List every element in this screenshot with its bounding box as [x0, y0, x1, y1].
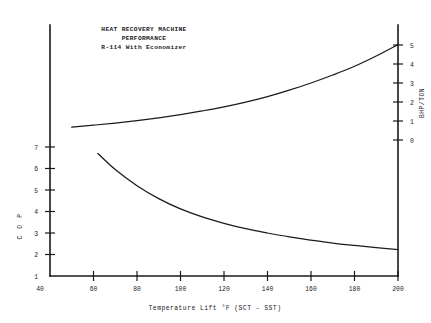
left-axis-ticks: 7 6 5 4 3 2 1: [34, 145, 55, 281]
right-tick-label: 1: [410, 119, 414, 126]
title-line-1: HEAT RECOVERY MACHINE: [101, 26, 186, 33]
right-tick-label: 3: [410, 81, 414, 88]
left-tick-label: 4: [34, 209, 38, 216]
data-curves: [72, 45, 398, 250]
title-line-2: PERFORMANCE: [122, 35, 167, 42]
left-tick-label: 1: [34, 274, 38, 281]
left-tick-label: 6: [34, 166, 38, 173]
title-line-3: R-114 With Economizer: [101, 44, 186, 51]
left-tick-label: 3: [34, 231, 38, 238]
x-tick-label: 140: [262, 286, 274, 293]
left-tick-label: 2: [34, 252, 38, 259]
performance-chart: HEAT RECOVERY MACHINE PERFORMANCE R-114 …: [0, 0, 431, 323]
left-tick-label: 7: [34, 145, 38, 152]
chart-page: HEAT RECOVERY MACHINE PERFORMANCE R-114 …: [0, 0, 431, 323]
right-tick-label: 5: [410, 43, 414, 50]
x-tick-label: 60: [90, 286, 98, 293]
left-axis-title: C O P: [17, 212, 24, 239]
x-tick-label: 120: [218, 286, 230, 293]
x-tick-label: 100: [175, 286, 187, 293]
x-tick-label: 40: [36, 286, 44, 293]
chart-title-block: HEAT RECOVERY MACHINE PERFORMANCE R-114 …: [101, 26, 186, 51]
right-axis-ticks: 5 4 3 2 1 0: [393, 43, 414, 145]
x-tick-label: 80: [133, 286, 141, 293]
right-axis-title: BHP/TON: [419, 88, 426, 118]
right-tick-label: 2: [410, 100, 414, 107]
x-tick-label: 180: [349, 286, 361, 293]
x-tick-label: 200: [392, 286, 404, 293]
x-axis-ticks: 40 60 80 100 120 140 160 180 200: [36, 271, 404, 293]
right-tick-label: 4: [410, 62, 414, 69]
cop-curve: [98, 153, 398, 249]
left-tick-label: 5: [34, 188, 38, 195]
x-tick-label: 160: [305, 286, 317, 293]
axes-group: [50, 25, 398, 276]
right-tick-label: 0: [410, 138, 414, 145]
bhp-per-ton-curve: [72, 45, 398, 127]
x-axis-title: Temperature Lift °F (SCT - SST): [149, 304, 282, 312]
